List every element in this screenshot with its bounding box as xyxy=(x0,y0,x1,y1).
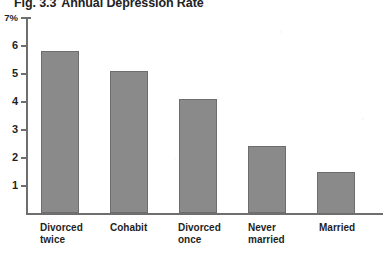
y-tick-label-5: 5 xyxy=(0,68,18,79)
y-tick-2 xyxy=(21,157,27,159)
x-label-divorced-twice: Divorced twice xyxy=(40,222,83,245)
y-tick-4 xyxy=(21,101,27,103)
y-tick-label-3: 3 xyxy=(0,124,18,135)
bar-never-married xyxy=(248,146,286,213)
figure-number: Fig. 3.3 xyxy=(14,0,56,10)
x-label-cohabit: Cohabit xyxy=(110,222,147,234)
y-tick-label-6: 6 xyxy=(0,40,18,51)
y-tick-5 xyxy=(21,73,27,75)
y-tick-1 xyxy=(21,185,27,187)
bar-cohabit xyxy=(110,71,148,214)
y-tick-7 xyxy=(21,17,27,19)
page-title: Fig. 3.3Annual Depression Rate xyxy=(14,0,204,10)
bar-divorced-once xyxy=(179,99,217,214)
x-label-married: Married xyxy=(319,222,355,234)
y-tick-label-4: 4 xyxy=(0,96,18,107)
figure-annual-depression-rate: Fig. 3.3Annual Depression Rate 7% 6 5 4 … xyxy=(0,0,390,265)
y-tick-label-7: 7% xyxy=(0,12,18,23)
bar-married xyxy=(317,172,355,214)
figure-title-text: Annual Depression Rate xyxy=(61,0,203,10)
x-label-divorced-once: Divorced once xyxy=(178,222,221,245)
y-tick-6 xyxy=(21,45,27,47)
y-tick-label-1: 1 xyxy=(0,180,18,191)
x-label-never-married: Never married xyxy=(248,222,285,245)
y-tick-3 xyxy=(21,129,27,131)
y-tick-label-2: 2 xyxy=(0,152,18,163)
bar-divorced-twice xyxy=(41,51,79,213)
